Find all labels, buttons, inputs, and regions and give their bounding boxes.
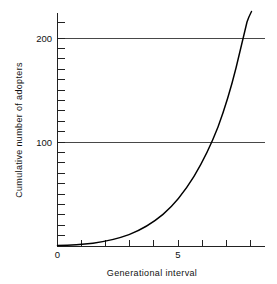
chart-figure: 200 100 0 5 Generational interval Cumula…	[0, 0, 277, 284]
y-tick-label-100: 100	[36, 137, 52, 148]
x-tick-label-5: 5	[175, 249, 180, 260]
y-axis-title: Cumulative number of adopters	[14, 62, 24, 198]
x-axis-title: Generational interval	[107, 268, 197, 278]
y-tick-label-200: 200	[36, 33, 52, 44]
x-tick-label-0: 0	[55, 249, 60, 260]
exponential-adoption-chart: 200 100 0 5 Generational interval Cumula…	[0, 0, 277, 284]
